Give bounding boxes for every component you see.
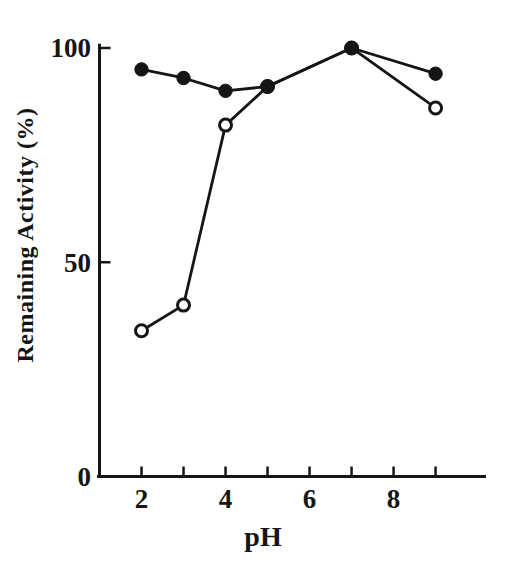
ph-activity-chart: 2468050100 Remaining Activity (%) pH	[0, 0, 511, 576]
y-axis-title: Remaining Activity (%)	[12, 108, 38, 363]
y-tick-label: 50	[64, 248, 91, 278]
open-circle-marker	[220, 119, 232, 131]
filled-circle-marker	[345, 41, 358, 54]
open-circle-marker	[430, 102, 442, 114]
x-tick-label: 2	[135, 484, 149, 514]
filled-circle-marker	[135, 63, 148, 76]
ph-stability-figure: 2468050100 Remaining Activity (%) pH	[0, 0, 511, 576]
y-tick-label: 100	[51, 33, 92, 63]
filled-circle-marker	[219, 84, 232, 97]
open-circle-series-line	[142, 48, 436, 331]
filled-circle-marker	[177, 71, 190, 84]
x-tick-label: 4	[219, 484, 233, 514]
plot-layer: 2468050100	[51, 33, 487, 514]
x-tick-label: 8	[387, 484, 401, 514]
x-tick-label: 6	[303, 484, 317, 514]
open-circle-marker	[178, 299, 190, 311]
filled-circle-marker	[429, 67, 442, 80]
x-axis-title: pH	[244, 521, 282, 552]
filled-circle-marker	[261, 80, 274, 93]
open-circle-marker	[136, 325, 148, 337]
y-tick-label: 0	[78, 462, 92, 492]
